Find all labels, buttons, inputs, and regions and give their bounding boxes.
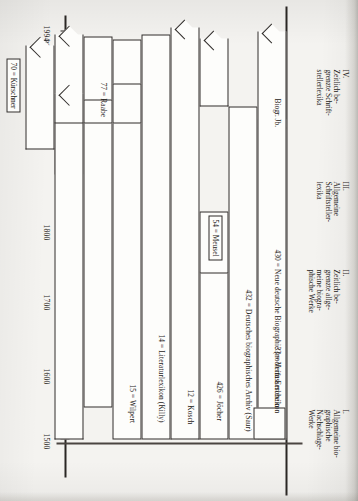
group-iv-line-3: stellerlexika	[314, 69, 323, 115]
bar-kuerschner[interactable]	[25, 45, 54, 149]
page-edge-shadow-bottom	[0, 492, 358, 501]
tick-label-1600: 1600	[41, 368, 50, 384]
tick-label-1700: 1700	[41, 294, 50, 310]
bar-raabe-segment-1[interactable]	[112, 83, 141, 123]
bar-label-meusel: 54 = Meusel	[208, 215, 222, 260]
bar-goedeke[interactable]	[83, 36, 112, 407]
group-iv-line-2: grenzte Schrift-	[322, 69, 331, 115]
bar-label-wilpert: 15 = Wilpert	[127, 384, 136, 423]
page-edge-shadow-right	[345, 0, 358, 501]
bar-label-verfasserlexikon: 33 = Verfasserlexikon	[272, 346, 281, 413]
group-iii-line-2: Schriftsteller-	[322, 181, 331, 222]
bar-raabe-segment-2[interactable]	[83, 99, 112, 123]
annotation-biogr-jb: Biogr. Jb.	[272, 98, 281, 127]
bar-label-kosch: 12 = Kosch	[185, 389, 194, 424]
timeline-figure: 1500 1600 1700 1800 1900 1945 1994 427 =…	[0, 0, 358, 501]
group-ii-line-2: grenzte allge-	[322, 269, 331, 312]
bar-label-joecher: 426 = Jöcher	[214, 381, 223, 420]
group-iii-line-3: lexika	[314, 181, 323, 222]
figure-wrapper: 1500 1600 1700 1800 1900 1945 1994 427 =…	[0, 0, 358, 501]
bar-label-killy: 14 = Literaturlexikon (Killy)	[156, 334, 165, 422]
group-caption-ii: II. Zeitlich be- grenzte allge- meine bi…	[305, 269, 348, 312]
group-caption-i: I. Allgemeine bio- graphische Nachschlag…	[305, 409, 348, 457]
tick-label-1500: 1500	[41, 433, 50, 449]
group-i-line-4: Werke	[305, 409, 314, 457]
group-ii-line-4: phische Werke	[305, 269, 314, 312]
tick-label-1800: 1800	[41, 224, 50, 240]
group-caption-iii: III. Allgemeine Schriftsteller- lexika	[314, 181, 348, 222]
bar-label-kuerschner: 70 = Kürschner	[6, 58, 20, 112]
bar-label-dba: 432 = Deutsches biographisches Archiv (S…	[243, 289, 252, 431]
bar-label-raabe: 77 = Raabe	[98, 82, 107, 117]
axis-origin-stub	[56, 443, 302, 445]
bar-kosch[interactable]	[170, 27, 199, 439]
group-caption-iv: IV. Zeitlich be- grenzte Schrift- stelle…	[314, 69, 348, 115]
group-i-line-2: graphische	[322, 409, 331, 457]
